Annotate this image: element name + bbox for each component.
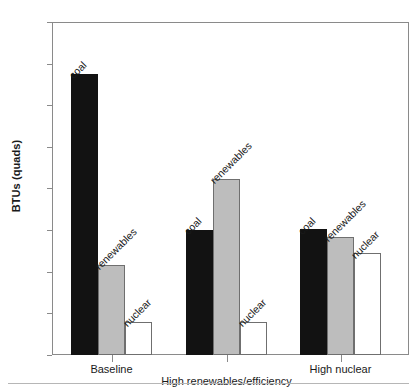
x-tick-mark-high-renewables [227, 355, 228, 362]
bar-high-renewables-coal[interactable] [186, 230, 213, 355]
bar-chart-figure: BTUs (quads) 40 35 30 25 20 15 10 5 0 co… [0, 0, 417, 391]
bar-baseline-renewables[interactable] [98, 265, 125, 355]
bar-high-nuclear-nuclear[interactable] [354, 253, 381, 355]
bar-high-nuclear-coal[interactable] [300, 229, 327, 355]
x-tick-mark-high-nuclear [341, 355, 342, 362]
y-tick-mark-0 [47, 355, 52, 356]
x-group-label-high-renewables: High renewables/efficiency [147, 375, 307, 387]
x-tick-mark-baseline [112, 355, 113, 362]
x-group-label-baseline: Baseline [52, 363, 172, 375]
x-group-label-high-nuclear: High nuclear [281, 363, 401, 375]
bar-baseline-coal[interactable] [71, 74, 98, 355]
bottom-divider-rule [8, 383, 409, 384]
y-axis-title: BTUs (quads) [10, 116, 22, 236]
bar-high-renewables-renewables[interactable] [213, 179, 240, 356]
